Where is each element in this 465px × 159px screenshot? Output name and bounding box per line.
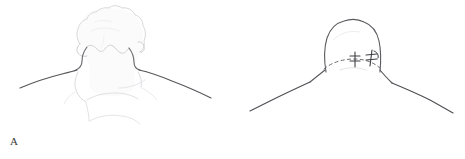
back-lower-contour (90, 115, 140, 124)
neck-right-edge (380, 70, 392, 83)
suture-mark-right (366, 50, 378, 66)
shoulder-right (139, 70, 211, 98)
neck-left-edge (310, 70, 325, 82)
upper-back-contour-right (138, 72, 141, 87)
scalp-shading-hint (333, 31, 360, 40)
shoulder-left (250, 82, 310, 111)
shoulder-left (20, 70, 77, 88)
figure-container: A (0, 0, 465, 159)
upper-back-contour-left (75, 72, 86, 102)
scalp-dome-outline (325, 20, 381, 72)
deltoid-hint-left (64, 92, 75, 104)
deltoid-hint-right (142, 88, 157, 100)
nape-shadow (340, 68, 366, 70)
suture-mark-left (350, 52, 360, 67)
panel-label-a: A (10, 136, 18, 147)
panel-b: B (232, 0, 465, 159)
panel-a: A (0, 0, 232, 159)
shoulder-right (392, 83, 453, 113)
panel-a-drawing (0, 0, 232, 159)
back-midline (86, 103, 89, 121)
panel-b-drawing (232, 0, 465, 159)
